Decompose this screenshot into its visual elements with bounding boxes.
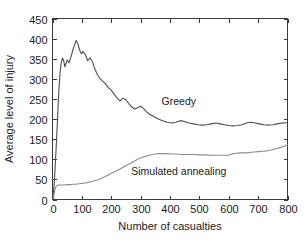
y-tick-label: 150 <box>29 134 47 146</box>
x-axis-tick-labels: 0100200300400500600700800 <box>50 203 297 215</box>
chart-figure: 0100200300400500600700800 05010015020025… <box>0 0 305 243</box>
x-tick-label: 0 <box>50 203 56 215</box>
x-tick-label: 500 <box>190 203 208 215</box>
y-tick-label: 200 <box>29 114 47 126</box>
y-tick-label: 250 <box>29 94 47 106</box>
x-axis-title: Number of casualties <box>118 220 222 232</box>
y-tick-label: 0 <box>41 195 47 207</box>
y-tick-label: 350 <box>29 54 47 66</box>
x-tick-label: 600 <box>220 203 238 215</box>
series-label-simulated-annealing: Simulated annealing <box>131 165 226 177</box>
y-axis-tick-labels: 050100150200250300350400450 <box>29 14 47 207</box>
x-tick-label: 400 <box>161 203 179 215</box>
x-tick-label: 100 <box>73 203 91 215</box>
x-tick-label: 300 <box>132 203 150 215</box>
x-tick-label: 800 <box>279 203 297 215</box>
y-tick-label: 300 <box>29 74 47 86</box>
chart-plot-area: 0100200300400500600700800 05010015020025… <box>0 0 305 243</box>
y-tick-label: 450 <box>29 14 47 26</box>
series-label-greedy: Greedy <box>162 95 197 107</box>
x-tick-label: 700 <box>249 203 267 215</box>
y-tick-label: 100 <box>29 154 47 166</box>
y-axis-title: Average level of injury <box>3 54 15 163</box>
series-annotations: GreedySimulated annealing <box>131 95 226 177</box>
y-tick-label: 400 <box>29 34 47 46</box>
x-tick-label: 200 <box>102 203 120 215</box>
y-tick-label: 50 <box>35 174 47 186</box>
